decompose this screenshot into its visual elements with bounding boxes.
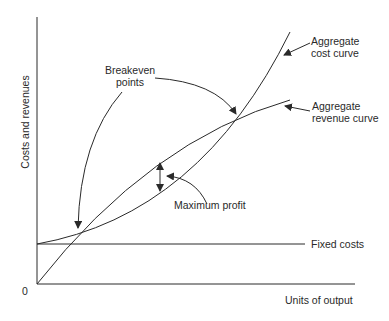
revenue-curve-label-2: revenue curve [312, 112, 379, 124]
max-profit-label: Maximum profit [174, 199, 246, 211]
breakeven-label-2: points [116, 76, 144, 88]
cost-curve [37, 32, 290, 244]
breakeven-label-1: Breakeven [105, 64, 155, 76]
x-axis-label: Units of output [285, 294, 353, 306]
cost-curve-label-1: Aggregate [311, 35, 360, 47]
revenue-curve-label-1: Aggregate [312, 100, 361, 112]
cost-curve-label-2: cost curve [311, 47, 359, 59]
breakeven-arrow-lower [78, 92, 122, 228]
revenue-curve [37, 100, 290, 284]
revenue-label-arrow [285, 106, 310, 111]
y-axis-label: Costs and revenues [19, 75, 31, 168]
cost-label-arrow [284, 43, 310, 55]
breakeven-arrow-upper [155, 78, 236, 114]
fixed-costs-label: Fixed costs [311, 238, 364, 250]
breakeven-diagram: Costs and revenues 0 Units of output Bre… [0, 0, 389, 321]
origin-label: 0 [22, 285, 28, 297]
